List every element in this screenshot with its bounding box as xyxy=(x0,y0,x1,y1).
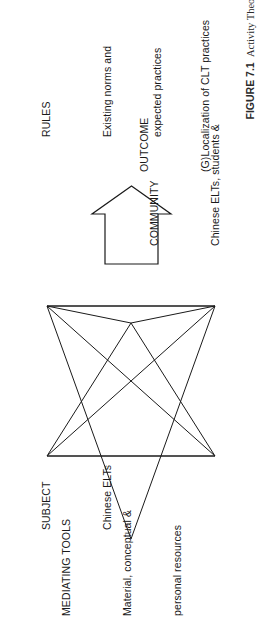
mediating-tools-detail-line2: personal resources xyxy=(171,466,183,616)
activity-theory-figure: MEDIATING TOOLS Material, conceptual & p… xyxy=(0,0,257,634)
node-subject: SUBJECT Chinese ELTs xyxy=(2,420,151,530)
link-community-divisionoflabor xyxy=(131,306,215,323)
figure-caption-number: FIGURE 7.1 xyxy=(244,62,256,119)
node-object: OBJECT Appropriation of CLT principles xyxy=(222,390,257,530)
figure-caption: FIGURE 7.1 Activity Theory as a Lens xyxy=(232,0,257,137)
figure-rotated-canvas: MEDIATING TOOLS Material, conceptual & p… xyxy=(0,0,257,634)
outcome-heading: OUTCOME xyxy=(138,0,150,172)
outcome-detail-line1: (G)Localization of CLT practices xyxy=(199,0,211,172)
node-outcome: OUTCOME (G)Localization of CLT practices xyxy=(100,0,249,172)
rules-heading: RULES xyxy=(40,7,52,137)
figure-caption-spacer xyxy=(245,57,256,62)
subject-heading: SUBJECT xyxy=(40,420,52,530)
link-community-rules xyxy=(47,306,131,323)
subject-detail-line1: Chinese ELTs xyxy=(101,420,113,530)
figure-caption-title: Activity Theory as a Lens xyxy=(245,0,256,57)
